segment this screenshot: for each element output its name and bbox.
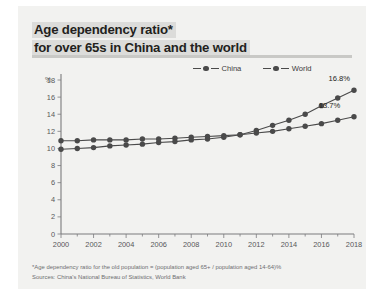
line-chart-svg: 0246810121416182000200220042006200820102… [18,58,366,258]
svg-text:16: 16 [47,93,55,102]
footnote-sources: Sources: China's National Bureau of Stat… [32,272,362,282]
title-line-2: for over 65s in China and the world [32,40,250,56]
svg-text:2002: 2002 [85,240,101,249]
svg-text:12: 12 [47,127,55,136]
svg-text:2012: 2012 [248,240,264,249]
svg-text:14: 14 [47,110,55,119]
svg-text:2004: 2004 [118,240,134,249]
svg-text:2008: 2008 [183,240,199,249]
svg-text:13.7%: 13.7% [319,101,341,110]
chart-card: Age dependency ratio* for over 65s in Ch… [18,6,366,289]
svg-text:4: 4 [51,195,55,204]
chart-footnotes: *Age dependency ratio for the old popula… [32,262,362,282]
footnote-definition: *Age dependency ratio for the old popula… [32,262,362,272]
svg-text:0: 0 [51,230,55,239]
title-line-1: Age dependency ratio* [32,22,176,38]
svg-text:2010: 2010 [216,240,232,249]
svg-text:2006: 2006 [150,240,166,249]
svg-text:2014: 2014 [281,240,297,249]
page-title: Age dependency ratio* for over 65s in Ch… [32,20,352,56]
svg-text:2016: 2016 [313,240,329,249]
svg-text:2: 2 [51,212,55,221]
chart-plot-area: % China World 02468101214161820002002200… [18,58,366,258]
svg-text:16.8%: 16.8% [329,74,351,83]
svg-text:2018: 2018 [346,240,362,249]
svg-text:10: 10 [47,144,55,153]
svg-text:8: 8 [51,161,55,170]
svg-text:18: 18 [47,76,55,85]
svg-text:6: 6 [51,178,55,187]
svg-text:2000: 2000 [53,240,69,249]
